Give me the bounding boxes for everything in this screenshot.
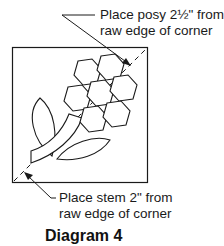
callout-top-line1: Place posy 2½" from (100, 7, 224, 23)
callout-bottom-line1: Place stem 2" from (59, 190, 173, 206)
arrow-bottom-leader (27, 175, 56, 198)
callout-bottom-line2: raw edge of corner (59, 206, 172, 222)
callout-top-line2: raw edge of corner (100, 23, 213, 39)
diagram-title: Diagram 4 (45, 227, 122, 245)
